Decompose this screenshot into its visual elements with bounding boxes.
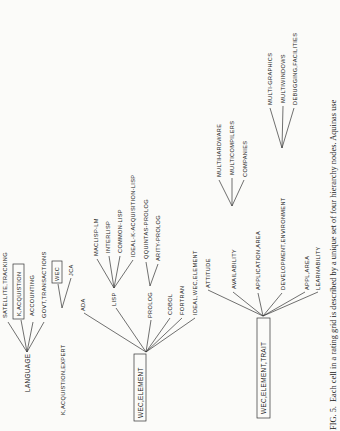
node-application-area: APPLICATION,AREA — [255, 231, 261, 290]
tree-wec-element: WEC,ELEMENT ADA LISP MACLISP-LM INTERLIS… — [80, 175, 198, 421]
node-appl-area: APPL,AREA — [304, 256, 310, 290]
node-learnability: LEARNABILITY — [315, 246, 321, 290]
node-interlisp: INTERLISP — [105, 221, 111, 253]
node-multicompilers: MULTICOMPILERS — [229, 121, 235, 175]
node-wec-element-trait: WEC,ELEMENT,TRAIT — [260, 342, 267, 414]
node-k-acquistion: K,ACQUISTION — [16, 272, 22, 316]
node-ideal-k-acquisition-lisp: IDEAL-K-ACQUISITION-LISP — [130, 175, 136, 257]
node-k-acquistion-expert: K,ACQUISTION,EXPERT — [60, 344, 66, 415]
node-arity-prolog: ARITY-PROLOG — [155, 215, 161, 261]
node-multiwindows: MULTIWINDOWS — [280, 54, 286, 103]
hierarchy-diagram: LANGUAGE SATELLITE,TRACKING K,ACQUISTION… — [0, 0, 340, 431]
node-language: LANGUAGE — [24, 354, 31, 392]
node-qquintas-prolog: QQUINTAS-PROLOG — [143, 199, 149, 259]
node-wec: WEC — [54, 267, 60, 281]
node-lisp: LISP — [111, 292, 117, 306]
node-development-environment: DEVELOPMENT,ENVIRONMENT — [280, 197, 286, 290]
figure-caption: FIG. 5.Each cell in a rating grid is des… — [329, 99, 338, 430]
node-jca: JCA — [68, 264, 74, 276]
caption-body: Each cell in a rating grid is described … — [329, 99, 338, 402]
node-fortran: FORTRAN — [179, 286, 185, 315]
figure-page: LANGUAGE SATELLITE,TRACKING K,ACQUISTION… — [0, 0, 340, 431]
node-debugging-facilities: DEBUGGING,FACILITIES — [292, 33, 298, 105]
node-maclisp-lm: MACLISP-LM — [93, 218, 99, 256]
node-accounting: ACCOUNTING — [29, 275, 35, 316]
node-attitude: ATTITUDE — [205, 258, 211, 288]
node-govt-transactions: GOVT,TRANSACTIONS — [41, 251, 47, 318]
tree-k-acquistion-expert: K,ACQUISTION,EXPERT WEC JCA — [52, 261, 74, 415]
node-cobol: COBOL — [167, 294, 173, 315]
caption-text: FIG. 5.Each cell in a rating grid is des… — [329, 99, 338, 430]
node-ideal-wec-element: IDEAL,WEC,ELEMENT — [192, 250, 198, 315]
node-prolog: PROLOG — [147, 292, 153, 318]
tree-language: LANGUAGE SATELLITE,TRACKING K,ACQUISTION… — [2, 251, 47, 392]
caption-label: FIG. 5. — [329, 406, 338, 430]
node-multi-graphics: MULTI-GRAPHICS — [267, 53, 273, 105]
node-satellite-tracking: SATELLITE,TRACKING — [2, 252, 8, 318]
node-wec-element: WEC,ELEMENT — [137, 367, 144, 418]
node-companies: COMPANIES — [242, 141, 248, 177]
node-multihardware: MULTIHARDWARE — [216, 124, 222, 177]
node-ada: ADA — [80, 298, 86, 311]
tree-wec-element-trait: WEC,ELEMENT,TRAIT ATTITUDE AVAILABILITY … — [205, 33, 321, 418]
node-availability: AVAILABILITY — [231, 249, 237, 289]
node-common-lisp: COMMON-LISP — [117, 209, 123, 253]
